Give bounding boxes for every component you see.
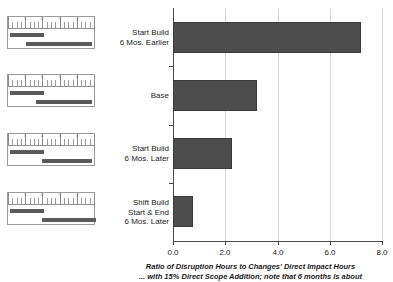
gantt-bar-design [10,33,44,37]
gantt-bar-build [36,100,92,104]
thumbnail-time-ruler: 1234 [8,134,94,146]
ruler-minor-tick [68,198,69,205]
ruler-minor-tick [47,80,48,87]
x-axis-tick-label: 6.0 [315,248,345,258]
ruler-minor-tick [51,139,52,146]
ruler-minor-tick [17,80,18,87]
ruler-minor-tick [73,80,74,87]
ruler-minor-tick [47,198,48,205]
figure-root: 1234123412341234 0.02.04.06.08.0Start Bu… [0,0,393,282]
ruler-minor-tick [51,22,52,29]
ruler-major-tick [8,134,9,146]
ruler-minor-tick [68,139,69,146]
ruler-year-label: 1 [24,192,26,197]
x-axis-tick-label: 8.0 [367,248,393,258]
ruler-year-label: 1 [24,16,26,21]
ruler-minor-tick [81,22,82,29]
ruler-minor-tick [21,198,22,205]
ruler-major-tick [94,134,95,146]
ruler-minor-tick [81,198,82,205]
ruler-minor-tick [64,22,65,29]
ruler-minor-tick [85,80,86,87]
ruler-minor-tick [30,80,31,87]
bar-chart: 0.02.04.06.08.0Start Build 6 Mos. Earlie… [108,0,393,282]
ruler-year-label: 2 [41,192,43,197]
category-label: Base [107,91,169,101]
ruler-year-label: 3 [59,16,61,21]
caption-line-2: ... with 15% Direct Scope Addition; note… [108,272,393,282]
ruler-minor-tick [64,198,65,205]
ruler-minor-tick [90,139,91,146]
ruler-minor-tick [30,198,31,205]
ruler-minor-tick [21,80,22,87]
ruler-minor-tick [12,198,13,205]
ruler-minor-tick [51,198,52,205]
x-axis-tick [278,241,279,245]
ruler-minor-tick [55,139,56,146]
ruler-minor-tick [17,198,18,205]
bar [173,22,361,53]
ruler-minor-tick [12,139,13,146]
ruler-minor-tick [38,198,39,205]
gantt-bar-design [10,91,44,95]
ruler-year-label: 4 [76,192,78,197]
ruler-minor-tick [90,22,91,29]
thumbnail-time-ruler: 1234 [8,193,94,205]
x-axis-tick [225,241,226,245]
x-axis-tick [330,241,331,245]
schedule-thumbnail-start-build-6-mos-earlier: 1234 [7,16,95,49]
thumbnail-time-ruler: 1234 [8,17,94,29]
bar [173,138,232,169]
ruler-year-label: 4 [76,16,78,21]
ruler-major-tick [94,193,95,205]
x-axis-tick-label: 4.0 [263,248,293,258]
ruler-minor-tick [12,22,13,29]
ruler-minor-tick [85,198,86,205]
x-gridline [382,8,383,241]
caption-line-1: Ratio of Disruption Hours to Changes' Di… [146,262,355,271]
ruler-year-label: 4 [76,133,78,138]
ruler-minor-tick [64,139,65,146]
ruler-minor-tick [85,22,86,29]
ruler-year-label: 4 [76,74,78,79]
ruler-minor-tick [90,198,91,205]
ruler-minor-tick [55,80,56,87]
ruler-year-label: 2 [41,74,43,79]
x-axis-tick [173,241,174,245]
ruler-minor-tick [47,139,48,146]
bar [173,196,193,227]
ruler-year-label: 2 [41,133,43,138]
ruler-minor-tick [90,80,91,87]
ruler-minor-tick [21,139,22,146]
ruler-minor-tick [38,139,39,146]
x-axis-tick-label: 2.0 [210,248,240,258]
ruler-minor-tick [73,139,74,146]
gantt-bar-build [42,218,96,222]
bar [173,80,257,111]
ruler-major-tick [8,193,9,205]
ruler-minor-tick [17,22,18,29]
category-label: Start Build 6 Mos. Earlier [107,28,169,47]
schedule-thumbnail-start-build-6-mos-later: 1234 [7,133,95,166]
ruler-year-label: 2 [41,16,43,21]
ruler-minor-tick [73,22,74,29]
ruler-major-tick [8,75,9,87]
thumbnail-time-ruler: 1234 [8,75,94,87]
gantt-bar-build [42,159,92,163]
ruler-minor-tick [85,139,86,146]
ruler-major-tick [8,17,9,29]
ruler-minor-tick [34,22,35,29]
category-label: Start Build 6 Mos. Later [107,144,169,163]
y-axis-tick [169,66,173,67]
category-label: Shift Build Start & End 6 Mos. Later [107,198,169,227]
ruler-minor-tick [81,139,82,146]
ruler-minor-tick [34,80,35,87]
ruler-minor-tick [55,198,56,205]
ruler-minor-tick [12,80,13,87]
ruler-minor-tick [51,80,52,87]
ruler-year-label: 1 [24,133,26,138]
ruler-minor-tick [81,80,82,87]
plot-area: 0.02.04.06.08.0Start Build 6 Mos. Earlie… [173,8,382,241]
ruler-minor-tick [68,80,69,87]
ruler-minor-tick [73,198,74,205]
